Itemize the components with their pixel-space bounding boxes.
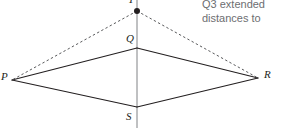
vertex-label-p: P (1, 71, 8, 82)
geometry-figure-canvas: P Q R S T Q3 extended distances to (0, 0, 281, 128)
vertex-label-s: S (126, 111, 132, 122)
rhombus-edges (12, 48, 258, 107)
vertex-label-r: R (264, 69, 271, 80)
point-t-marker (134, 8, 140, 14)
caption-line-2: distances to (202, 11, 281, 25)
caption-text-block: Q3 extended distances to (202, 0, 281, 25)
vertex-label-q: Q (126, 33, 134, 44)
vertex-label-t: T (128, 0, 134, 5)
caption-line-1: Q3 extended (202, 0, 281, 11)
